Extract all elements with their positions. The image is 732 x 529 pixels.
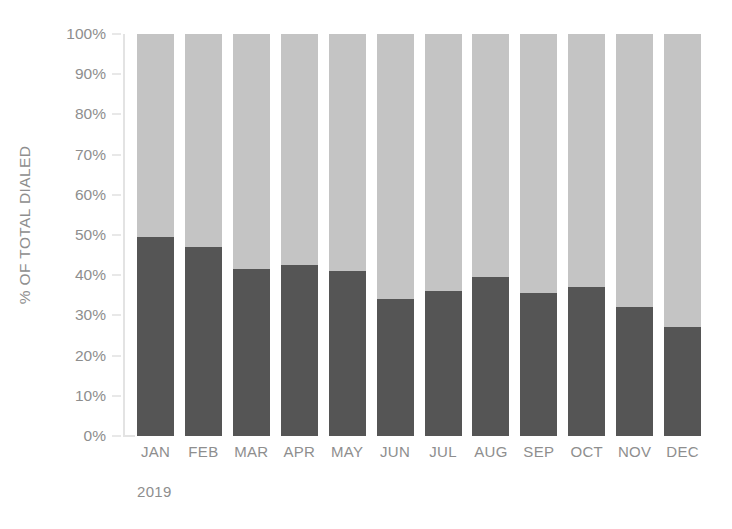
y-axis-title: % OF TOTAL DIALED: [8, 10, 42, 440]
bar-group[interactable]: [233, 34, 270, 436]
y-axis-tick-labels: 0%10%20%30%40%50%60%70%80%90%100%: [46, 34, 106, 436]
bar-segment-bottom[interactable]: [137, 237, 174, 436]
y-axis-tick-label: 20%: [75, 347, 106, 365]
x-axis-tick-label: DEC: [664, 443, 701, 460]
y-axis-tick-label: 60%: [75, 186, 106, 204]
y-axis-tick-mark: [112, 436, 121, 437]
y-axis-tick-label: 10%: [75, 387, 106, 405]
x-axis-tick-label: OCT: [568, 443, 605, 460]
x-axis-tick-label: AUG: [472, 443, 509, 460]
x-axis-origin-mark: [123, 435, 135, 437]
y-axis-tick-label: 50%: [75, 226, 106, 244]
bar-segment-bottom[interactable]: [616, 307, 653, 436]
bar-segment-top[interactable]: [377, 34, 414, 299]
x-axis-tick-label: MAR: [233, 443, 270, 460]
bar-group[interactable]: [520, 34, 557, 436]
y-axis-tick-mark: [112, 194, 121, 195]
y-axis-tick-mark: [112, 34, 121, 35]
bar-group[interactable]: [568, 34, 605, 436]
plot-area: [137, 34, 712, 436]
bar-group[interactable]: [616, 34, 653, 436]
bar-segment-top[interactable]: [568, 34, 605, 287]
y-axis-tick-mark: [112, 355, 121, 356]
x-axis-tick-label: SEP: [520, 443, 557, 460]
x-axis-tick-label: APR: [281, 443, 318, 460]
y-axis-tick-mark: [112, 275, 121, 276]
y-axis-tick-mark: [112, 315, 121, 316]
bar-group[interactable]: [377, 34, 414, 436]
bar-group[interactable]: [185, 34, 222, 436]
y-axis-tick-label: 0%: [84, 427, 106, 445]
x-axis-tick-label: NOV: [616, 443, 653, 460]
x-axis-tick-label: JAN: [137, 443, 174, 460]
bar-segment-bottom[interactable]: [377, 299, 414, 436]
y-axis-tick-mark: [112, 395, 121, 396]
bar-segment-bottom[interactable]: [425, 291, 462, 436]
bar-segment-top[interactable]: [281, 34, 318, 265]
bar-group[interactable]: [472, 34, 509, 436]
y-axis-tick-mark: [112, 235, 121, 236]
y-axis-tick-mark: [112, 74, 121, 75]
y-axis-ticks: [112, 34, 122, 436]
y-axis-tick-label: 40%: [75, 266, 106, 284]
x-axis-period-label: 2019: [137, 483, 172, 500]
bar-segment-top[interactable]: [329, 34, 366, 271]
bar-segment-bottom[interactable]: [185, 247, 222, 436]
y-axis-tick-label: 90%: [75, 65, 106, 83]
x-axis-tick-label: MAY: [329, 443, 366, 460]
x-axis-tick-label: FEB: [185, 443, 222, 460]
y-axis-tick-label: 30%: [75, 306, 106, 324]
bar-segment-top[interactable]: [185, 34, 222, 247]
bar-group[interactable]: [281, 34, 318, 436]
bar-segment-top[interactable]: [616, 34, 653, 307]
bar-group[interactable]: [425, 34, 462, 436]
bar-segment-top[interactable]: [664, 34, 701, 327]
bar-segment-bottom[interactable]: [472, 277, 509, 436]
bar-segment-bottom[interactable]: [568, 287, 605, 436]
bar-segment-top[interactable]: [472, 34, 509, 277]
y-axis-tick-label: 70%: [75, 146, 106, 164]
x-axis-tick-label: JUL: [425, 443, 462, 460]
bar-segment-bottom[interactable]: [233, 269, 270, 436]
bar-segment-bottom[interactable]: [664, 327, 701, 436]
bar-group[interactable]: [137, 34, 174, 436]
x-axis-tick-labels: JANFEBMARAPRMAYJUNJULAUGSEPOCTNOVDEC: [137, 443, 712, 465]
bar-segment-top[interactable]: [137, 34, 174, 237]
bar-group[interactable]: [329, 34, 366, 436]
bar-segment-top[interactable]: [233, 34, 270, 269]
y-axis-tick-mark: [112, 114, 121, 115]
bar-segment-top[interactable]: [425, 34, 462, 291]
x-axis-tick-label: JUN: [377, 443, 414, 460]
y-axis-tick-label: 80%: [75, 105, 106, 123]
bar-segment-top[interactable]: [520, 34, 557, 293]
y-axis-tick-label: 100%: [66, 25, 106, 43]
y-axis-tick-mark: [112, 154, 121, 155]
bar-segment-bottom[interactable]: [281, 265, 318, 436]
bar-group[interactable]: [664, 34, 701, 436]
bar-segment-bottom[interactable]: [329, 271, 366, 436]
y-axis-spine: [123, 34, 125, 437]
stacked-bar-chart: % OF TOTAL DIALED 0%10%20%30%40%50%60%70…: [0, 0, 732, 529]
bar-segment-bottom[interactable]: [520, 293, 557, 436]
